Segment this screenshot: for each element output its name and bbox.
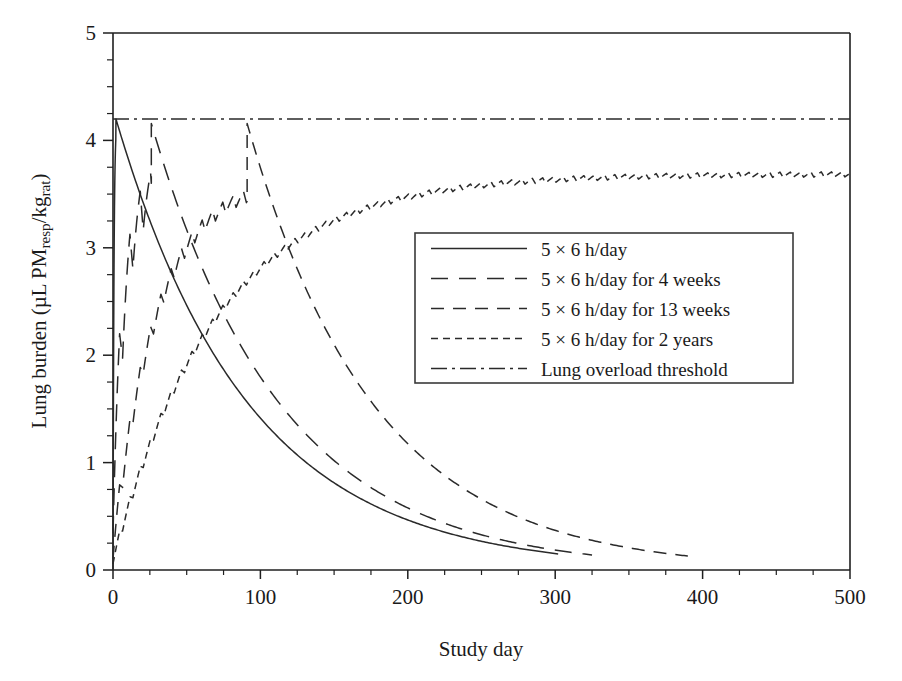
chart-legend[interactable]: 5 × 6 h/day5 × 6 h/day for 4 weeks5 × 6 … (415, 233, 793, 383)
x-tick-label: 400 (687, 585, 719, 609)
x-tick-label: 200 (392, 585, 424, 609)
legend-label: Lung overload threshold (541, 359, 728, 380)
y-tick-label: 2 (86, 343, 97, 367)
lung-burden-chart: 0100200300400500012345 5 × 6 h/day5 × 6 … (0, 0, 902, 681)
y-axis-title-prefix: Lung burden (µL PM (27, 248, 51, 428)
y-axis-title-sub-rat: rat (37, 180, 53, 197)
y-tick-label: 5 (86, 21, 97, 45)
y-tick-label: 4 (86, 128, 97, 152)
y-tick-label: 1 (86, 451, 97, 475)
y-tick-label: 0 (86, 558, 97, 582)
figure-container: 0100200300400500012345 5 × 6 h/day5 × 6 … (0, 0, 902, 681)
x-axis-title: Study day (439, 637, 524, 661)
x-tick-label: 300 (539, 585, 571, 609)
legend-label: 5 × 6 h/day for 4 weeks (541, 269, 721, 290)
legend-label: 5 × 6 h/day for 2 years (541, 329, 713, 350)
legend-label: 5 × 6 h/day for 13 weeks (541, 299, 730, 320)
y-axis-title-suffix: ) (27, 174, 51, 181)
x-tick-label: 500 (834, 585, 866, 609)
y-axis-title-mid: /kg (27, 196, 51, 223)
y-tick-label: 3 (86, 236, 97, 260)
x-tick-label: 100 (245, 585, 277, 609)
x-tick-label: 0 (108, 585, 119, 609)
y-axis-title-sub-resp: resp (37, 223, 53, 248)
legend-label: 5 × 6 h/day (541, 239, 628, 260)
y-axis-title: Lung burden (µL PMresp/kgrat) (27, 174, 53, 429)
